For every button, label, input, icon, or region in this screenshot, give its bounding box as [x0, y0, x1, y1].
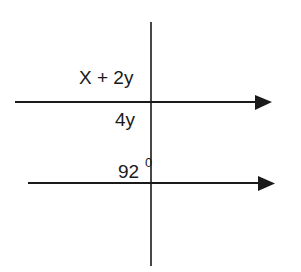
upper-arrowhead-icon: [255, 95, 272, 110]
diagram-canvas: X + 2y 4y 92 0: [0, 0, 301, 272]
angle-label-4y: 4y: [115, 110, 135, 129]
lower-arrowhead-icon: [258, 176, 275, 191]
degree-symbol: 0: [145, 156, 152, 169]
diagram-lines: [0, 0, 301, 272]
angle-label-x-plus-2y: X + 2y: [79, 68, 133, 87]
angle-label-92: 92: [118, 162, 139, 181]
